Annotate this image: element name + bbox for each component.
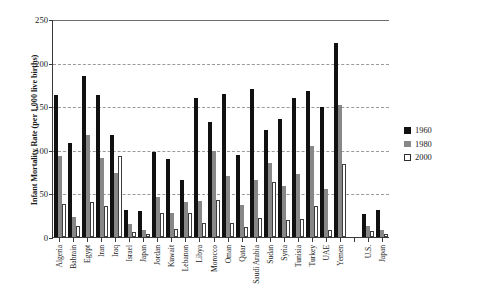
bar-group: [137, 20, 151, 237]
bar: [82, 76, 85, 237]
bar: [180, 180, 183, 237]
x-label-cell: Egypt: [80, 244, 94, 302]
x-tick-cell: [66, 238, 80, 243]
x-tick-cell: [136, 238, 150, 243]
x-tick-label: Kuwait: [167, 245, 176, 267]
x-tick-label: Iran: [97, 245, 106, 257]
x-label-cell: Libya: [192, 244, 206, 302]
bar: [198, 201, 201, 237]
x-tick-mark: [340, 238, 341, 242]
bar: [128, 224, 131, 237]
x-label-cell: Tunisia: [291, 244, 305, 302]
x-tick-cell: [361, 238, 375, 243]
x-tick-mark: [312, 238, 313, 242]
bar: [268, 163, 271, 237]
x-tick-cell: [192, 238, 206, 243]
bar-group: [67, 20, 81, 237]
bar-group: [109, 20, 123, 237]
x-label-cell: Bahrain: [66, 244, 80, 302]
bar: [146, 234, 149, 237]
x-tick-label: Turkey: [307, 245, 316, 266]
x-label-cell: Jordan: [150, 244, 164, 302]
bar: [244, 227, 247, 237]
x-tick-mark: [101, 238, 102, 242]
x-tick-label: Bahrain: [69, 245, 78, 269]
bar: [264, 130, 267, 237]
x-tick-cell: [122, 238, 136, 243]
legend-item: 1960: [404, 126, 474, 135]
x-tick-label: Jordan: [153, 245, 162, 265]
x-tick-label: Libya: [195, 245, 204, 262]
x-tick-cell: [52, 238, 66, 243]
bar: [212, 151, 215, 237]
bar-group: [123, 20, 137, 237]
bar: [124, 210, 127, 237]
x-label-cell: UAE: [319, 244, 333, 302]
x-tick-mark: [59, 238, 60, 242]
bar-group: [263, 20, 277, 237]
bar: [188, 213, 191, 237]
x-label-cell: Sudan: [263, 244, 277, 302]
bar: [100, 158, 103, 237]
x-tick-label: Yemen: [335, 245, 344, 266]
x-tick-mark: [115, 238, 116, 242]
x-tick-mark: [228, 238, 229, 242]
bar: [104, 206, 107, 237]
bar: [86, 135, 89, 237]
bar: [118, 156, 121, 237]
bar: [194, 98, 197, 237]
x-tick-label: Japan: [139, 245, 148, 262]
bar: [314, 206, 317, 237]
bar: [286, 220, 289, 237]
bar: [292, 98, 295, 237]
x-tick-mark: [270, 238, 271, 242]
x-tick-mark: [354, 238, 355, 242]
bar: [156, 197, 159, 237]
x-label-cell: Iran: [94, 244, 108, 302]
bar-group: [305, 20, 319, 237]
x-tick-cell: [150, 238, 164, 243]
x-label-cell: Japan: [136, 244, 150, 302]
legend-swatch-icon: [404, 141, 411, 148]
x-tick-mark: [326, 238, 327, 242]
x-tick-mark: [298, 238, 299, 242]
bar: [142, 230, 145, 237]
x-tick-mark: [214, 238, 215, 242]
x-tick-cell: [375, 238, 389, 243]
bar: [296, 174, 299, 237]
x-tick-label: Egypt: [83, 245, 92, 263]
legend-label: 1980: [415, 140, 432, 149]
x-tick-label: Morocco: [209, 245, 218, 272]
legend-item: 2000: [404, 153, 474, 162]
bar: [68, 143, 71, 237]
bar-group: [375, 20, 389, 237]
bar: [306, 91, 309, 237]
x-label-cell: Kuwait: [164, 244, 178, 302]
bar: [376, 210, 379, 237]
x-label-cell: Saudi Arabia: [249, 244, 263, 302]
bar: [278, 119, 281, 237]
x-tick-cell: [263, 238, 277, 243]
x-tick-label: Qatar: [237, 245, 246, 262]
bar: [114, 173, 117, 237]
bar: [328, 230, 331, 237]
bar-group: [193, 20, 207, 237]
x-label-cell: Qatar: [235, 244, 249, 302]
x-axis-labels: AlgeriaBahrainEgyptIranIraqIsraelJapanJo…: [52, 244, 389, 302]
bar-group: [221, 20, 235, 237]
x-tick-cell: [319, 238, 333, 243]
x-tick-cell: [249, 238, 263, 243]
bar: [300, 219, 303, 237]
x-tick-cell: [164, 238, 178, 243]
legend-label: 1960: [415, 126, 432, 135]
x-tick-cell: [277, 238, 291, 243]
x-tick-mark: [157, 238, 158, 242]
bar: [184, 202, 187, 237]
bar-group: [319, 20, 333, 237]
bar: [240, 205, 243, 237]
legend-swatch-icon: [404, 154, 411, 161]
x-tick-label: Japan: [378, 245, 387, 262]
bar: [338, 105, 341, 237]
x-axis-ticks: [52, 238, 389, 243]
x-label-cell: Lebanon: [178, 244, 192, 302]
